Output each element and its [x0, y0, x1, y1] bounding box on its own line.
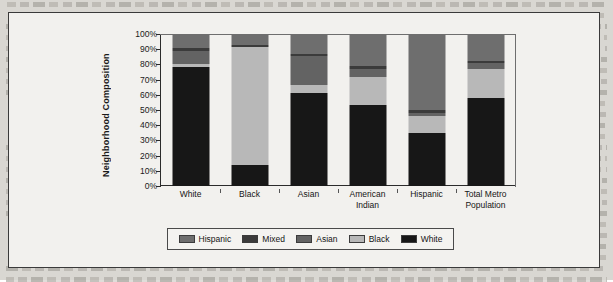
bar-segment-white: [290, 93, 327, 186]
x-axis-category-labels: WhiteBlackAsianAmericanIndianHispanicTot…: [161, 189, 515, 225]
legend-swatch-mixed: [242, 235, 258, 243]
stacked-bar[interactable]: [467, 34, 504, 186]
legend-item-mixed[interactable]: Mixed: [242, 234, 285, 244]
y-tick-label: 30%: [140, 135, 157, 145]
bar-segment-white: [172, 67, 209, 186]
legend-swatch-black: [349, 235, 365, 243]
bar-segment-hispanic: [231, 34, 268, 45]
legend-label: Black: [369, 234, 390, 244]
legend-swatch-asian: [296, 235, 312, 243]
bar-slot: [397, 34, 456, 186]
legend-label: Hispanic: [199, 234, 232, 244]
y-tick-label: 80%: [140, 59, 157, 69]
legend-swatch-hispanic: [179, 235, 195, 243]
bar-segment-white: [349, 105, 386, 186]
bar-segment-asian: [290, 56, 327, 85]
bar-slot: [161, 34, 220, 186]
bar-slot: [220, 34, 279, 186]
bar-segment-black: [467, 69, 504, 98]
bar-slot: [338, 34, 397, 186]
stacked-bars-group: [161, 34, 515, 186]
bar-segment-hispanic: [467, 34, 504, 61]
x-category-label-hispanic: Hispanic: [397, 189, 456, 200]
y-tick-label: 60%: [140, 90, 157, 100]
legend-item-black[interactable]: Black: [349, 234, 390, 244]
plot-border-right: [515, 34, 516, 187]
legend-label: White: [421, 234, 443, 244]
legend-swatch-white: [401, 235, 417, 243]
bar-segment-asian: [172, 51, 209, 64]
bar-segment-hispanic: [408, 34, 445, 110]
plot-area: Neighborhood Composition 100%90%80%70%60…: [9, 13, 601, 213]
bar-segment-hispanic: [349, 34, 386, 66]
stacked-bar[interactable]: [408, 34, 445, 186]
legend-item-asian[interactable]: Asian: [296, 234, 337, 244]
y-axis-tick-labels: 100%90%80%70%60%50%40%30%20%10%0%: [117, 34, 157, 186]
x-category-label-white: White: [161, 189, 220, 200]
y-tick-label: 10%: [140, 166, 157, 176]
bar-segment-black: [231, 47, 268, 166]
stacked-bar[interactable]: [231, 34, 268, 186]
y-axis-title: Neighborhood Composition: [97, 33, 115, 198]
y-tick-label: 90%: [140, 44, 157, 54]
bar-segment-hispanic: [172, 34, 209, 48]
bar-segment-black: [349, 77, 386, 105]
bar-segment-white: [408, 133, 445, 186]
y-tick-label: 100%: [135, 29, 157, 39]
stacked-bar[interactable]: [172, 34, 209, 186]
y-axis-tick: [156, 186, 161, 187]
background-text-line: [6, 2, 607, 7]
x-category-label-american-indian: AmericanIndian: [338, 189, 397, 211]
x-category-label-black: Black: [220, 189, 279, 200]
bar-slot: [456, 34, 515, 186]
y-tick-label: 40%: [140, 120, 157, 130]
legend-label: Mixed: [262, 234, 285, 244]
legend-label: Asian: [316, 234, 337, 244]
y-tick-label: 50%: [140, 105, 157, 115]
bar-segment-asian: [349, 69, 386, 77]
bar-segment-white: [467, 98, 504, 186]
bar-segment-black: [290, 85, 327, 93]
bar-segment-hispanic: [290, 34, 327, 54]
bar-slot: [279, 34, 338, 186]
x-category-label-total-metro-population: Total MetroPopulation: [456, 189, 515, 211]
bar-segment-black: [408, 116, 445, 133]
y-tick-label: 70%: [140, 75, 157, 85]
background-text-line: [6, 277, 607, 282]
stacked-bar[interactable]: [349, 34, 386, 186]
x-category-label-asian: Asian: [279, 189, 338, 200]
stacked-bar[interactable]: [290, 34, 327, 186]
legend-item-hispanic[interactable]: Hispanic: [179, 234, 232, 244]
chart-legend: HispanicMixedAsianBlackWhite: [167, 228, 454, 250]
bar-segment-white: [231, 165, 268, 186]
chart-figure-frame: Neighborhood Composition 100%90%80%70%60…: [8, 12, 600, 268]
y-tick-label: 20%: [140, 151, 157, 161]
legend-item-white[interactable]: White: [401, 234, 443, 244]
